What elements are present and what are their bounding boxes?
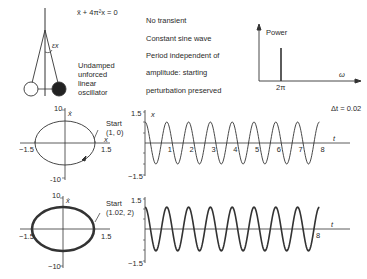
p1-xvar: x — [104, 136, 108, 144]
p2-x-left: −1.5 — [19, 233, 34, 241]
spectrum-peak-label: 2π — [276, 84, 285, 92]
ts1-y-top: 1.5 — [131, 110, 141, 118]
p2-yvar: ẋ — [66, 197, 70, 205]
p1-x-right: 1.5 — [101, 146, 111, 154]
caption-line-4: oscillator — [78, 89, 108, 97]
ts2-tvar: t — [331, 221, 333, 229]
p1-yvar: ẋ — [68, 110, 72, 118]
time-series-1 — [143, 110, 350, 176]
ts1-tick-1: 1 — [168, 146, 172, 154]
ts1-tick-6: 6 — [277, 146, 281, 154]
property-2: Constant sine wave — [146, 35, 211, 43]
ts2-y-top: 1.5 — [131, 197, 141, 205]
p2-start-coords: (1.02, 2) — [106, 209, 134, 217]
angle-label: εx — [52, 42, 59, 49]
pendulum-diagram — [24, 8, 66, 96]
spectrum-xlabel: ω — [339, 71, 345, 79]
ts1-tvar: t — [333, 135, 335, 143]
ts1-tick-8: 8 — [320, 146, 324, 154]
timestep-label: Δt = 0.02 — [331, 105, 361, 113]
caption-line-2: unforced — [78, 71, 107, 79]
p1-start: Start — [106, 120, 122, 128]
ts1-tick-2: 2 — [190, 146, 194, 154]
ts2-tick-8: 8 — [316, 232, 320, 240]
spectrum-ylabel: Power — [266, 29, 287, 37]
ts1-xvar: x — [151, 111, 155, 119]
ts1-tick-7: 7 — [299, 146, 303, 154]
ts1-tick-4: 4 — [233, 146, 237, 154]
p2-y-top: 10 — [52, 192, 60, 200]
ts2-y-bot: −1.5 — [128, 260, 143, 268]
p1-start-coords: (1, 0) — [106, 129, 124, 137]
p1-y-bot: -10 — [50, 176, 61, 184]
ts1-y-bot: −1.5 — [128, 173, 143, 181]
ts1-tick-5: 5 — [255, 146, 259, 154]
p2-start: Start — [106, 200, 122, 208]
property-3: Period independent of — [146, 52, 219, 60]
p1-y-top: 10 — [54, 105, 62, 113]
p2-x-right: 1.5 — [101, 233, 111, 241]
displaced-bob-icon — [52, 82, 66, 96]
phase-plot-1 — [20, 108, 110, 180]
property-5: perturbation preserved — [146, 87, 221, 95]
caption-line-3: linear — [78, 80, 96, 88]
rest-bob-icon — [24, 82, 38, 96]
p2-y-bot: −10 — [48, 263, 61, 271]
equation: ẍ + 4π²x = 0 — [77, 9, 118, 17]
p1-x-left: −1.5 — [19, 146, 34, 154]
time-series-2 — [143, 197, 350, 263]
property-4: amplitude: starting — [146, 69, 207, 77]
property-1: No transient — [146, 17, 186, 25]
ts1-tick-3: 3 — [211, 146, 215, 154]
caption-line-1: Undamped — [78, 62, 115, 70]
